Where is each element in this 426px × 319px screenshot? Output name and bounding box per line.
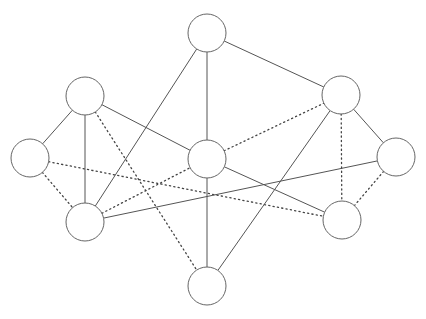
edge-r-lr	[354, 171, 383, 205]
node-c	[188, 140, 226, 178]
nodes-layer	[11, 14, 415, 305]
edge-l-ll	[42, 172, 72, 207]
node-r	[377, 138, 415, 176]
node-b	[188, 267, 226, 305]
edge-c-ur	[224, 103, 324, 151]
node-ur	[322, 76, 360, 114]
node-ul	[66, 77, 104, 115]
edge-ul-l	[43, 110, 73, 144]
node-lr	[323, 201, 361, 239]
edge-t-ur	[224, 41, 324, 87]
graph-diagram	[0, 0, 426, 319]
node-l	[11, 139, 49, 177]
node-ll	[66, 203, 104, 241]
edge-ur-r	[354, 109, 384, 143]
node-t	[188, 14, 226, 52]
edge-ur-lr	[341, 114, 342, 201]
edge-ul-c	[102, 105, 190, 151]
